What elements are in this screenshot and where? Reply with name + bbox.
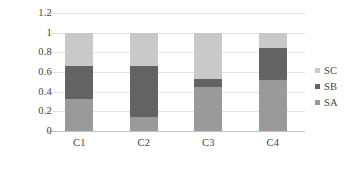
y-axis-tick-label: 0.2 xyxy=(10,106,52,117)
y-axis-tick-label: 1 xyxy=(10,28,52,39)
legend-item-label: SC xyxy=(324,65,337,76)
x-axis-tick-label: C3 xyxy=(188,137,228,148)
bar-segment-sc[interactable] xyxy=(194,33,222,79)
x-axis-tick-label: C4 xyxy=(253,137,293,148)
bar-stack xyxy=(259,33,287,131)
bar-segment-sb[interactable] xyxy=(194,79,222,87)
gridline xyxy=(47,131,305,132)
bar-stack xyxy=(130,33,158,131)
bar-segment-sb[interactable] xyxy=(130,66,158,117)
bar-segment-sb[interactable] xyxy=(65,66,93,98)
bars-layer xyxy=(47,13,305,131)
bar-segment-sc[interactable] xyxy=(130,33,158,66)
square-swatch-icon xyxy=(315,100,320,105)
bar-segment-sa[interactable] xyxy=(194,87,222,131)
legend-item-label: SB xyxy=(324,81,337,92)
y-axis-tick-label: 0.6 xyxy=(10,67,52,78)
bar-group[interactable] xyxy=(130,13,158,131)
x-axis-tick-label: C1 xyxy=(59,137,99,148)
bar-segment-sc[interactable] xyxy=(65,33,93,66)
legend-item-sa[interactable]: SA xyxy=(315,94,338,110)
bar-stack xyxy=(194,33,222,131)
bar-segment-sa[interactable] xyxy=(65,99,93,131)
legend-item-sb[interactable]: SB xyxy=(315,78,338,94)
y-axis-tick-label: 0.8 xyxy=(10,47,52,58)
x-axis-tick-label: C2 xyxy=(124,137,164,148)
plot-area xyxy=(47,13,305,131)
stacked-bar-chart: SCSBSA 00.20.40.60.811.2C1C2C3C4 xyxy=(0,0,363,172)
bar-group[interactable] xyxy=(259,13,287,131)
y-axis-tick-label: 0.4 xyxy=(10,87,52,98)
bar-group[interactable] xyxy=(194,13,222,131)
bar-stack xyxy=(65,33,93,131)
bar-group[interactable] xyxy=(65,13,93,131)
y-axis-tick-label: 0 xyxy=(10,126,52,137)
legend-item-sc[interactable]: SC xyxy=(315,62,338,78)
chart-legend: SCSBSA xyxy=(315,62,338,110)
bar-segment-sa[interactable] xyxy=(259,80,287,131)
bar-segment-sc[interactable] xyxy=(259,33,287,49)
y-axis-tick-label: 1.2 xyxy=(10,8,52,19)
legend-item-label: SA xyxy=(324,97,338,108)
square-swatch-icon xyxy=(315,84,320,89)
square-swatch-icon xyxy=(315,68,320,73)
bar-segment-sb[interactable] xyxy=(259,48,287,79)
bar-segment-sa[interactable] xyxy=(130,117,158,131)
